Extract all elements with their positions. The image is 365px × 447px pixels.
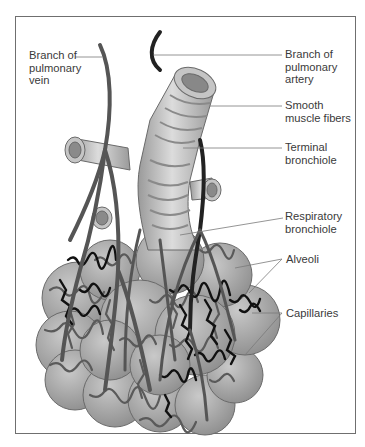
label-line: pulmonary <box>29 62 81 75</box>
label-line: vein <box>29 74 81 87</box>
label-line: Alveoli <box>286 253 319 266</box>
label-alveoli: Alveoli <box>286 253 319 266</box>
label-pulmonary-vein: Branch of pulmonary vein <box>29 49 81 87</box>
label-pulmonary-artery: Branch of pulmonary artery <box>285 48 337 86</box>
label-line: Terminal <box>285 141 337 154</box>
label-terminal-bronchiole: Terminal bronchiole <box>285 141 337 166</box>
label-line: Capillaries <box>286 307 338 320</box>
label-line: Branch of <box>285 48 337 61</box>
label-line: Branch of <box>29 49 81 62</box>
label-line: bronchiole <box>285 154 337 167</box>
label-line: artery <box>285 73 337 86</box>
label-line: Respiratory <box>285 210 342 223</box>
label-smooth-muscle-fibers: Smooth muscle fibers <box>285 99 351 124</box>
label-line: pulmonary <box>285 61 337 74</box>
label-respiratory-bronchiole: Respiratory bronchiole <box>285 210 342 235</box>
label-line: bronchiole <box>285 223 342 236</box>
bronchiole <box>65 61 221 250</box>
label-line: muscle fibers <box>285 112 351 125</box>
label-line: Smooth <box>285 99 351 112</box>
label-capillaries: Capillaries <box>286 307 338 320</box>
